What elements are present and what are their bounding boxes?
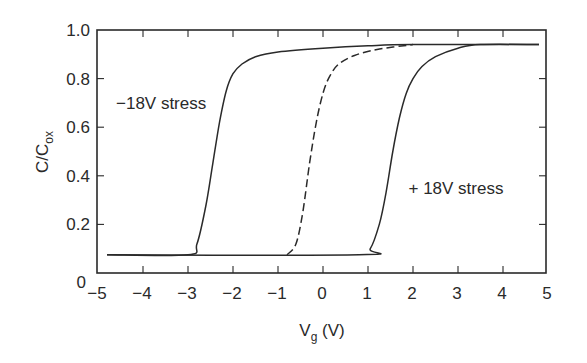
y-tick-label: 0 (77, 273, 86, 292)
y-axis-label: C/Cox (33, 131, 56, 173)
x-tick-label: −1 (267, 284, 286, 303)
y-tick-label: 0.2 (66, 215, 90, 234)
cv-curve-chart: −5−4−3−2−1012345 00.20.40.60.81.0 −18V s… (0, 0, 587, 363)
x-tick-label: −3 (177, 284, 196, 303)
y-axis-label-subscript: ox (42, 131, 56, 144)
x-axis-label-subscript: g (311, 330, 318, 344)
series-line-unstressed (287, 45, 413, 255)
x-axis-label: Vg (V) (299, 321, 344, 344)
x-tick-label: 0 (317, 284, 326, 303)
plot-frame (97, 30, 546, 273)
y-tick-label: 1.0 (66, 21, 90, 40)
x-tick-label: −2 (222, 284, 241, 303)
y-axis-ticks: 00.20.40.60.81.0 (66, 21, 546, 292)
y-tick-label: 0.6 (66, 118, 90, 137)
x-tick-label: 5 (542, 284, 551, 303)
x-tick-label: 3 (452, 284, 461, 303)
annotation-negative-stress: −18V stress (116, 94, 206, 113)
x-axis-ticks: −5−4−3−2−1012345 (87, 30, 551, 303)
x-tick-label: −4 (132, 284, 151, 303)
annotations: −18V stress+ 18V stress (116, 94, 503, 198)
data-series (107, 44, 539, 255)
x-tick-label: 2 (407, 284, 416, 303)
annotation-positive-stress: + 18V stress (409, 179, 504, 198)
series-line-18v-stress (107, 45, 539, 256)
x-tick-label: −5 (87, 284, 106, 303)
plot-border (97, 30, 546, 273)
y-tick-label: 0.4 (66, 167, 90, 186)
x-tick-label: 4 (497, 284, 506, 303)
x-tick-label: 1 (362, 284, 371, 303)
series-line-18v-stress (107, 44, 539, 255)
y-tick-label: 0.8 (66, 70, 90, 89)
